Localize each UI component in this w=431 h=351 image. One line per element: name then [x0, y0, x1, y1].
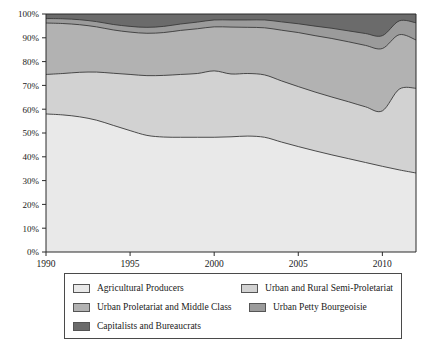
- legend-label: Urban Proletariat and Middle Class: [97, 302, 232, 313]
- chart-svg: 0%10%20%30%40%50%60%70%80%90%100%1990199…: [0, 0, 431, 268]
- legend-row: Urban Proletariat and Middle Class Urban…: [73, 298, 393, 317]
- svg-text:2010: 2010: [373, 259, 392, 268]
- legend-entry-agricultural-producers[interactable]: Agricultural Producers: [73, 283, 241, 294]
- chart-region: 0%10%20%30%40%50%60%70%80%90%100%1990199…: [0, 0, 431, 268]
- legend-label: Capitalists and Bureaucrats: [97, 321, 201, 332]
- legend-label: Urban Petty Bourgeoisie: [273, 302, 367, 313]
- svg-text:1990: 1990: [37, 259, 56, 268]
- legend-swatch-icon: [73, 303, 90, 312]
- svg-text:80%: 80%: [23, 57, 40, 67]
- legend-entry-capitalists-and-bureaucrats[interactable]: Capitalists and Bureaucrats: [73, 321, 249, 332]
- legend-label: Urban and Rural Semi-Proletariat: [265, 283, 393, 294]
- legend-entry-urban-petty-bourgeoisie[interactable]: Urban Petty Bourgeoisie: [249, 302, 367, 313]
- svg-text:100%: 100%: [18, 9, 40, 19]
- svg-text:10%: 10%: [23, 224, 40, 234]
- legend-swatch-icon: [249, 303, 266, 312]
- svg-text:70%: 70%: [23, 81, 40, 91]
- svg-text:60%: 60%: [23, 105, 40, 115]
- svg-text:50%: 50%: [23, 128, 40, 138]
- stacked-area-chart-page: 0%10%20%30%40%50%60%70%80%90%100%1990199…: [0, 0, 431, 351]
- legend-row: Agricultural Producers Urban and Rural S…: [73, 279, 393, 298]
- legend-swatch-icon: [241, 284, 258, 293]
- legend-entry-urban-and-rural-semi-proletariat[interactable]: Urban and Rural Semi-Proletariat: [241, 283, 393, 294]
- svg-text:2005: 2005: [289, 259, 308, 268]
- legend-swatch-icon: [73, 284, 90, 293]
- svg-text:2000: 2000: [205, 259, 224, 268]
- legend-swatch-icon: [73, 322, 90, 331]
- svg-text:90%: 90%: [23, 33, 40, 43]
- svg-text:40%: 40%: [23, 152, 40, 162]
- svg-text:30%: 30%: [23, 176, 40, 186]
- legend-entry-urban-proletariat-and-middle-class[interactable]: Urban Proletariat and Middle Class: [73, 302, 249, 313]
- legend-row: Capitalists and Bureaucrats: [73, 317, 393, 336]
- legend-label: Agricultural Producers: [97, 283, 184, 294]
- chart-legend: Agricultural Producers Urban and Rural S…: [64, 273, 402, 339]
- svg-text:20%: 20%: [23, 200, 40, 210]
- svg-text:0%: 0%: [27, 247, 40, 257]
- svg-text:1995: 1995: [121, 259, 140, 268]
